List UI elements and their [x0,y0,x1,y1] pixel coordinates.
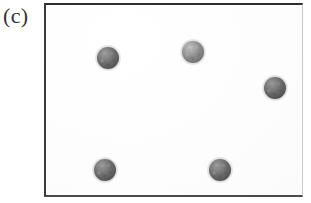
sphere-bottom-left [94,159,116,181]
scene-background [46,5,302,195]
panel-label: (c) [3,4,28,28]
sphere-top-center [182,41,204,63]
sphere-top-left [97,47,119,69]
sphere-right [264,77,286,99]
figure-panel: (c) [0,0,311,203]
sphere-bottom-center [209,159,231,181]
sphere-right-texture [264,77,286,99]
scene-frame [44,3,303,197]
sphere-bottom-left-texture [94,159,116,181]
sphere-top-center-texture [182,41,204,63]
sphere-bottom-center-texture [209,159,231,181]
sphere-top-left-texture [97,47,119,69]
